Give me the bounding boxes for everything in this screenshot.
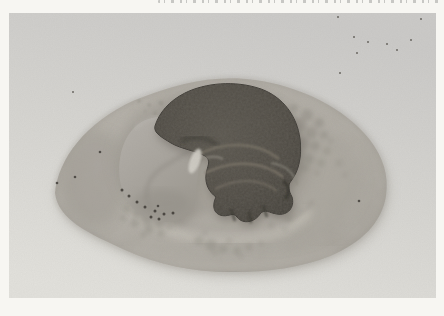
plate-page bbox=[0, 0, 444, 316]
cropped-caption-fragments bbox=[158, 0, 444, 3]
film-grain-overlay bbox=[9, 13, 436, 298]
photo-frame bbox=[9, 13, 436, 298]
specimen-photograph bbox=[9, 13, 436, 298]
